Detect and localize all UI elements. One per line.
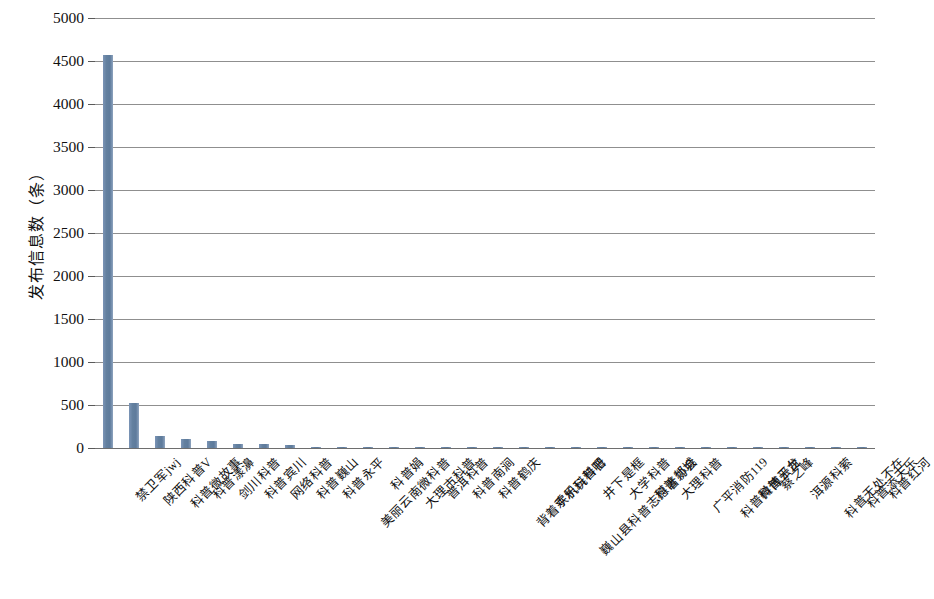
y-tick-label: 2500 bbox=[53, 224, 84, 242]
bar bbox=[285, 445, 295, 448]
x-tick-label-wrap: 欢乐科普吧 bbox=[549, 452, 609, 512]
gridline bbox=[95, 405, 875, 406]
gridline bbox=[95, 61, 875, 62]
gridline bbox=[95, 362, 875, 363]
bar bbox=[519, 447, 529, 448]
bar bbox=[493, 447, 503, 448]
y-tick-label: 5000 bbox=[53, 9, 84, 27]
gridline bbox=[95, 233, 875, 234]
y-tick-mark bbox=[88, 147, 95, 148]
y-tick-mark bbox=[88, 405, 95, 406]
bar bbox=[155, 436, 165, 448]
plot-area: 5000450040003500300025002000150010005000 bbox=[95, 18, 875, 448]
gridline bbox=[95, 276, 875, 277]
y-tick-label: 1500 bbox=[53, 310, 84, 328]
bar bbox=[207, 441, 217, 448]
bar bbox=[337, 447, 347, 448]
bar bbox=[597, 447, 607, 448]
bar bbox=[805, 447, 815, 448]
gridline bbox=[95, 18, 875, 19]
bar bbox=[181, 439, 191, 448]
y-tick-mark bbox=[88, 233, 95, 234]
bar bbox=[233, 444, 243, 448]
y-tick-mark bbox=[88, 104, 95, 105]
bar bbox=[753, 447, 763, 448]
bar bbox=[831, 447, 841, 448]
bar bbox=[103, 55, 113, 448]
gridline bbox=[95, 104, 875, 105]
y-tick-mark bbox=[88, 18, 95, 19]
bar bbox=[571, 447, 581, 448]
gridline bbox=[95, 147, 875, 148]
bar bbox=[259, 444, 269, 448]
y-tick-mark bbox=[88, 190, 95, 191]
bar bbox=[441, 447, 451, 448]
bar bbox=[363, 447, 373, 448]
y-tick-label: 3500 bbox=[53, 138, 84, 156]
y-tick-mark bbox=[88, 319, 95, 320]
bar bbox=[779, 447, 789, 448]
bar bbox=[701, 447, 711, 448]
bar bbox=[415, 447, 425, 448]
y-tick-mark bbox=[88, 61, 95, 62]
bar bbox=[545, 447, 555, 448]
bar bbox=[311, 447, 321, 448]
gridline bbox=[95, 319, 875, 320]
x-tick-label-wrap: 洱源科萦 bbox=[805, 452, 856, 503]
y-tick-mark bbox=[88, 448, 95, 449]
axis-baseline bbox=[95, 448, 875, 449]
bar bbox=[675, 447, 685, 448]
y-tick-label: 4000 bbox=[53, 95, 84, 113]
bar bbox=[857, 447, 867, 448]
y-tick-label: 1000 bbox=[53, 353, 84, 371]
gridline bbox=[95, 190, 875, 191]
bar bbox=[649, 447, 659, 448]
y-tick-mark bbox=[88, 362, 95, 363]
x-tick-label: 洱源科萦 bbox=[805, 452, 856, 503]
bar bbox=[467, 447, 477, 448]
bar bbox=[129, 403, 139, 448]
y-tick-label: 3000 bbox=[53, 181, 84, 199]
y-tick-label: 4500 bbox=[53, 52, 84, 70]
x-tick-label: 欢乐科普吧 bbox=[549, 452, 609, 512]
bar bbox=[623, 447, 633, 448]
y-axis-title: 发布信息数（条） bbox=[23, 102, 47, 362]
bar bbox=[389, 447, 399, 448]
x-axis-labels: 禁卫军jwj陕西科普V科普微故事科普漾濞剑川科普科普宾川网络科普科普巍山科普永平… bbox=[95, 452, 885, 597]
y-tick-label: 2000 bbox=[53, 267, 84, 285]
y-tick-label: 0 bbox=[76, 439, 84, 457]
bar bbox=[727, 447, 737, 448]
y-tick-label: 500 bbox=[61, 396, 84, 414]
y-tick-mark bbox=[88, 276, 95, 277]
